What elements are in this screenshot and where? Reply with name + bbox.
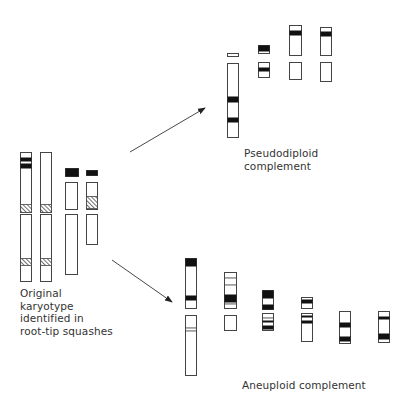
arrow-to-aneuploid — [112, 260, 172, 302]
chromosome-segment — [66, 169, 79, 177]
dark-band — [225, 285, 237, 286]
arrow-to-pseudodiploid — [130, 108, 205, 152]
chromosome-segment — [225, 316, 237, 331]
dark-band — [228, 118, 239, 123]
aneuploid-complement — [186, 259, 390, 376]
chromosome-segment — [21, 215, 32, 282]
chromosome-segment — [225, 273, 237, 309]
chromosome-segment — [290, 26, 302, 56]
pseudodiploid-complement — [228, 26, 332, 138]
chromosome-segment — [263, 291, 274, 310]
chromosome-segment — [66, 215, 78, 275]
hatched-band — [21, 205, 32, 213]
chromosome-segment — [302, 314, 313, 342]
chromosome-segment — [263, 314, 274, 331]
dark-band — [263, 291, 274, 299]
dark-band — [225, 304, 237, 305]
chromosome-segment — [259, 63, 270, 78]
chromosome-segment — [228, 64, 239, 138]
chromosome-segment — [321, 63, 332, 82]
chromosome-segment — [379, 312, 390, 343]
chromosome-segment — [228, 54, 239, 57]
dark-band — [259, 68, 270, 72]
aneuploid-label: Aneuploid complement — [242, 379, 366, 392]
dark-band — [259, 46, 270, 52]
chromosome-figure — [0, 0, 408, 407]
dark-band — [263, 321, 274, 323]
dark-band — [263, 326, 274, 330]
hatched-band — [41, 259, 52, 266]
dark-band — [340, 323, 351, 328]
chromosome-segment — [340, 312, 351, 344]
dark-band — [21, 164, 32, 169]
karyotype-diagram: Original karyotype identified in root-ti… — [0, 0, 408, 407]
chromosome-segment — [41, 153, 52, 213]
dark-band — [225, 278, 237, 279]
dark-band — [290, 31, 302, 36]
dark-band — [186, 259, 197, 267]
chromosome-segment — [321, 28, 332, 56]
pseudodiploid-label: Pseudodiploid complement — [244, 147, 318, 172]
dark-band — [340, 337, 351, 342]
dark-band — [87, 171, 98, 176]
dark-band — [302, 300, 313, 304]
chromosome-segment — [87, 171, 98, 176]
dark-band — [186, 331, 197, 332]
dark-band — [66, 169, 79, 177]
dark-band — [21, 158, 32, 162]
chromosome-segment — [186, 259, 197, 309]
chromosome-segment — [290, 63, 302, 80]
chromosome-segment — [302, 298, 313, 309]
chromosome-segment — [87, 183, 98, 210]
dark-band — [228, 97, 239, 103]
original-karyotype-label: Original karyotype identified in root-ti… — [20, 287, 113, 337]
chromosome-segment — [87, 215, 98, 245]
dark-band — [225, 295, 237, 303]
chromosome-segment — [66, 183, 78, 210]
hatched-band — [87, 197, 98, 209]
original-karyotype — [21, 153, 98, 282]
dark-band — [321, 32, 332, 37]
chromosome-segment — [186, 316, 197, 376]
dark-band — [379, 334, 390, 340]
dark-band — [302, 316, 313, 318]
hatched-band — [41, 205, 52, 213]
dark-band — [186, 296, 197, 301]
chromosome-segment — [21, 153, 32, 213]
dark-band — [263, 318, 274, 319]
dark-band — [263, 305, 274, 310]
chromosome-segment — [41, 215, 52, 282]
chromosome-segment — [259, 46, 270, 54]
dark-band — [302, 321, 313, 324]
dark-band — [186, 328, 197, 329]
hatched-band — [21, 259, 32, 266]
dark-band — [379, 317, 390, 320]
